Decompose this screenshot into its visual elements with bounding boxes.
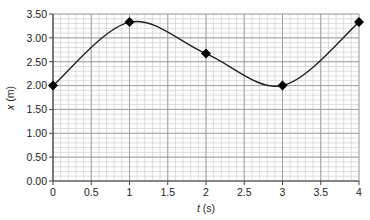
y-tick-label: 2.50 (27, 56, 48, 68)
x-tick-label: 2.5 (237, 186, 252, 198)
x-tick-label: 0.5 (84, 186, 99, 198)
x-tick-label: 2 (203, 186, 209, 198)
x-tick-label: 3.5 (313, 186, 328, 198)
x-tick-label: 4 (356, 186, 362, 198)
data-point-marker (278, 81, 288, 91)
y-axis-label: x (m) (4, 86, 16, 111)
position-time-chart: 0.000.501.001.502.002.503.003.50 00.511.… (0, 0, 370, 220)
y-tick-label: 1.00 (27, 127, 48, 139)
x-axis-ticks: 00.511.522.533.54 (50, 181, 362, 198)
y-tick-label: 3.00 (27, 32, 48, 44)
x-tick-label: 3 (280, 186, 286, 198)
y-tick-label: 0.50 (27, 151, 48, 163)
x-tick-label: 1.5 (160, 186, 175, 198)
y-axis-ticks: 0.000.501.001.502.002.503.003.50 (27, 8, 53, 187)
y-tick-label: 2.00 (27, 79, 48, 91)
x-tick-label: 1 (127, 186, 133, 198)
x-tick-label: 0 (50, 186, 56, 198)
y-tick-label: 3.50 (27, 8, 48, 20)
y-tick-label: 0.00 (27, 175, 48, 187)
y-tick-label: 1.50 (27, 103, 48, 115)
x-axis-label: t (s) (197, 202, 215, 214)
